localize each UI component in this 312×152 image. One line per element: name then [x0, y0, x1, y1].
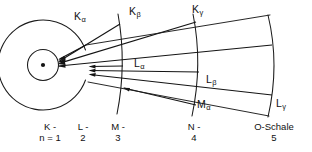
ray-l-gamma — [90, 75, 272, 96]
envelope-lower — [88, 82, 269, 116]
label-k-beta-base: K — [129, 5, 136, 17]
label-l-gamma: Lγ — [276, 98, 286, 110]
shell-label-o-line2: 5 — [244, 132, 304, 143]
label-l-gamma-sub: γ — [282, 102, 286, 111]
label-m-alpha-base: M — [197, 98, 206, 110]
label-l-alpha-base: L — [134, 57, 140, 69]
label-k-alpha-base: K — [74, 10, 81, 22]
shell-label-n-line2: 4 — [177, 132, 211, 143]
shell-label-l: L - 2 — [66, 121, 100, 143]
shell-label-m-line2: 3 — [101, 132, 135, 143]
ray-k-delta — [59, 45, 272, 66]
label-k-beta-sub: β — [136, 10, 141, 19]
m-shell-arc — [117, 14, 122, 114]
ray-l-beta — [90, 71, 199, 73]
label-k-alpha: Kα — [74, 11, 86, 23]
label-k-gamma: Kγ — [192, 4, 203, 16]
label-l-beta-base: L — [206, 73, 212, 85]
shell-label-n: N - 4 — [177, 121, 211, 143]
label-k-gamma-sub: γ — [199, 8, 203, 17]
o-shell-arc — [268, 15, 274, 117]
arrowhead-l-gamma — [89, 73, 96, 77]
shell-label-m-line1: M - — [111, 121, 125, 132]
label-l-alpha-sub: α — [140, 62, 145, 71]
label-k-beta: Kβ — [129, 6, 141, 18]
shell-label-l-line2: 2 — [66, 132, 100, 143]
label-l-gamma-base: L — [276, 97, 282, 109]
label-k-gamma-base: K — [192, 3, 199, 15]
label-m-alpha-sub: α — [206, 103, 211, 112]
figure-root: Kα Kβ Kγ Lα Lβ Mα Lγ K - n = 1 L - 2 M -… — [0, 0, 312, 152]
ray-k-gamma — [59, 22, 196, 63]
shell-label-m: M - 3 — [101, 121, 135, 143]
arrowhead-l-alpha — [89, 65, 96, 69]
label-m-alpha: Mα — [197, 99, 210, 111]
shell-label-o-line1: O-Schale — [254, 121, 294, 132]
envelope-upper — [86, 15, 270, 45]
shell-label-l-line1: L - — [78, 121, 89, 132]
label-l-alpha: Lα — [134, 58, 145, 70]
shell-label-k-line1: K - — [44, 121, 56, 132]
nucleus-dot — [41, 63, 45, 67]
label-k-alpha-sub: α — [81, 15, 86, 24]
shell-label-o: O-Schale 5 — [244, 121, 304, 143]
label-l-beta-sub: β — [212, 78, 217, 87]
ray-k-beta — [59, 24, 120, 61]
shell-label-n-line1: N - — [188, 121, 201, 132]
arrowhead-l-beta — [89, 69, 96, 73]
label-l-beta: Lβ — [206, 74, 217, 86]
